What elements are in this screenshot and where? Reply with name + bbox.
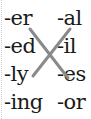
connection-ly-al bbox=[33, 29, 70, 76]
suffix-matching-diagram: -er -ed -ly -ing -al -il -es -or bbox=[0, 0, 91, 119]
connection-lines bbox=[0, 0, 91, 119]
